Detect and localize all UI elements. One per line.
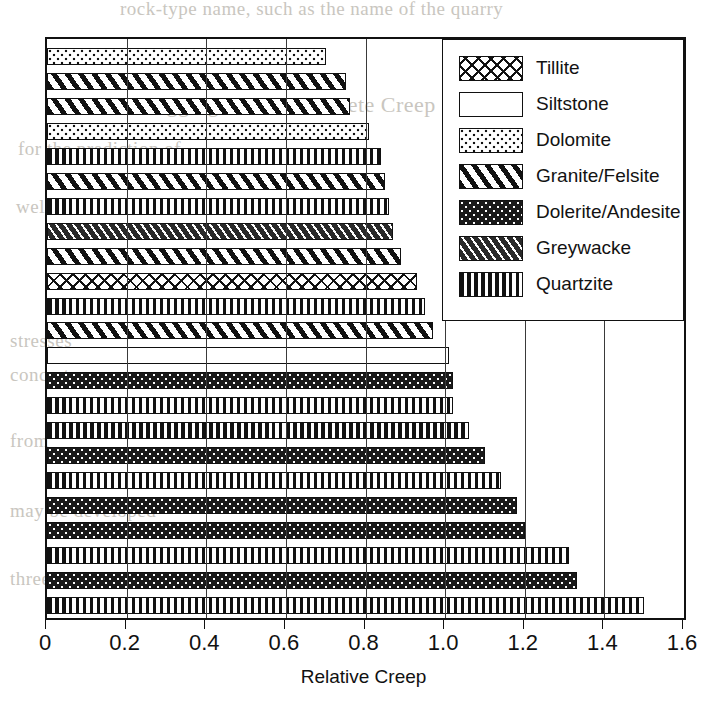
bar-quartzite[interactable] (47, 422, 469, 439)
gridline-0.4 (206, 39, 207, 618)
x-tick (45, 620, 46, 629)
x-tick-label: 1.4 (587, 630, 618, 656)
legend-item-quartzite[interactable]: Quartzite (459, 266, 683, 302)
legend-swatch-icon (459, 272, 523, 297)
legend-item-tillite[interactable]: Tillite (459, 50, 683, 86)
bar-granite-felsite[interactable] (47, 98, 350, 115)
legend-label: Quartzite (536, 273, 613, 295)
x-tick (125, 620, 126, 629)
legend-label: Granite/Felsite (536, 165, 660, 187)
x-tick (284, 620, 285, 629)
x-tick (523, 620, 524, 629)
legend: TilliteSiltstoneDolomiteGranite/FelsiteD… (442, 39, 684, 321)
x-tick (443, 620, 444, 629)
bar-dolerite-andesite[interactable] (47, 497, 517, 514)
x-axis-title: Relative Creep (0, 666, 727, 688)
x-tick-label: 0 (39, 630, 51, 656)
relative-creep-bar-chart: TilliteSiltstoneDolomiteGranite/FelsiteD… (0, 0, 727, 720)
bar-dolomite[interactable] (47, 48, 326, 65)
bar-quartzite[interactable] (47, 547, 569, 564)
legend-swatch-icon (459, 236, 523, 261)
bar-quartzite[interactable] (47, 597, 644, 614)
bar-dolerite-andesite[interactable] (47, 447, 485, 464)
bar-quartzite[interactable] (47, 397, 453, 414)
gridline-0.2 (127, 39, 128, 618)
legend-label: Tillite (536, 57, 580, 79)
x-tick-label: 1.6 (667, 630, 698, 656)
x-tick (602, 620, 603, 629)
bar-quartzite[interactable] (47, 198, 389, 215)
bar-granite-felsite[interactable] (47, 248, 401, 265)
bar-granite-felsite[interactable] (47, 73, 346, 90)
legend-item-dolomite[interactable]: Dolomite (459, 122, 683, 158)
bar-granite-felsite[interactable] (47, 173, 385, 190)
legend-item-greywacke[interactable]: Greywacke (459, 230, 683, 266)
bar-granite-felsite[interactable] (47, 322, 433, 339)
bar-dolomite[interactable] (47, 123, 369, 140)
bar-quartzite[interactable] (47, 148, 381, 165)
legend-swatch-icon (459, 56, 523, 81)
x-tick (682, 620, 683, 629)
x-tick-label: 0.8 (348, 630, 379, 656)
bar-greywacke[interactable] (47, 223, 393, 240)
bar-siltstone[interactable] (47, 347, 449, 364)
legend-swatch-icon (459, 92, 523, 117)
legend-swatch-icon (459, 200, 523, 225)
x-tick-label: 0.2 (109, 630, 140, 656)
legend-label: Dolomite (536, 129, 611, 151)
x-tick-label: 0.4 (189, 630, 220, 656)
legend-label: Greywacke (536, 237, 631, 259)
bar-quartzite[interactable] (47, 298, 425, 315)
legend-item-siltstone[interactable]: Siltstone (459, 86, 683, 122)
legend-item-granite-felsite[interactable]: Granite/Felsite (459, 158, 683, 194)
x-tick (364, 620, 365, 629)
gridline-0.6 (286, 39, 287, 618)
legend-label: Dolerite/Andesite (536, 201, 681, 223)
legend-label: Siltstone (536, 93, 609, 115)
gridline-0.8 (366, 39, 367, 618)
x-tick (204, 620, 205, 629)
x-tick-label: 1.0 (428, 630, 459, 656)
legend-item-dolerite-andesite[interactable]: Dolerite/Andesite (459, 194, 683, 230)
bar-tillite[interactable] (47, 273, 417, 290)
x-tick-label: 0.6 (269, 630, 300, 656)
bar-quartzite[interactable] (47, 472, 501, 489)
bar-dolerite-andesite[interactable] (47, 372, 453, 389)
x-tick-label: 1.2 (507, 630, 538, 656)
legend-swatch-icon (459, 164, 523, 189)
legend-swatch-icon (459, 128, 523, 153)
